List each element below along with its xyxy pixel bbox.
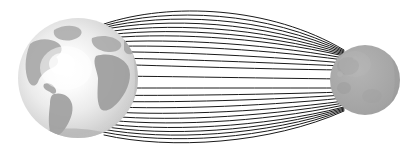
earth-moon-field-diagram <box>0 0 408 156</box>
moon-mare-3 <box>362 89 382 103</box>
moon-crater-1 <box>337 71 343 77</box>
diagram-canvas: Earth-Moon Field Line Diagram Earth Moon… <box>0 0 408 156</box>
moon-highlight <box>339 51 371 77</box>
moon-mare-2 <box>337 82 351 94</box>
earth-surface <box>18 16 142 142</box>
earth-globe <box>18 16 142 142</box>
